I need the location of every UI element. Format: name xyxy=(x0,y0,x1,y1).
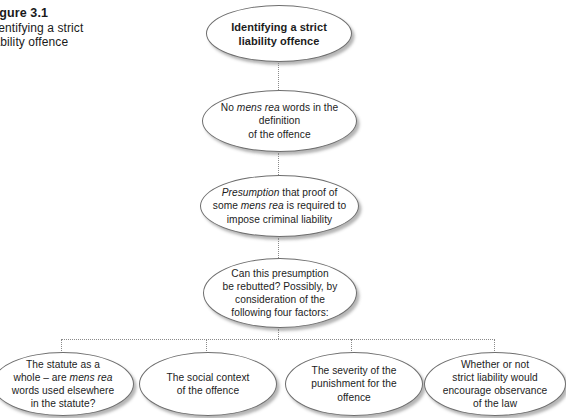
connector-branch-factor1 xyxy=(61,339,62,353)
node-factor-severity-of-punishment: The severity of thepunishment for theoff… xyxy=(285,352,423,416)
node-line-2: of the offence xyxy=(177,385,239,396)
node-line-2: strict liability would xyxy=(452,372,537,383)
connector-node3-node4 xyxy=(278,238,279,258)
figure-caption-line-2: liability offence xyxy=(0,35,108,50)
node-line-1: Can this presumption xyxy=(231,268,328,279)
figure-caption: Figure 3.1 Identifying a strict liabilit… xyxy=(0,6,108,50)
node-text: Identifying a strictliability offence xyxy=(225,20,333,48)
node-factor-social-context: The social contextof the offence xyxy=(139,352,277,416)
node-seg-1: that proof of xyxy=(279,187,337,198)
node-seg-1: whole – are xyxy=(14,372,70,383)
node-text: The statute as awhole – are mens reaword… xyxy=(6,358,120,411)
node-line-3: encourage observance xyxy=(443,385,548,396)
node-text: No mens rea words in thedefinitionof the… xyxy=(215,101,344,141)
node-line-2: punishment for the xyxy=(311,378,396,389)
node-seg-2: some xyxy=(213,200,241,211)
node-text: Can this presumptionbe rebutted? Possibl… xyxy=(217,267,344,320)
figure-caption-title: Figure 3.1 xyxy=(0,6,108,21)
figure-caption-line-1: Identifying a strict xyxy=(0,21,108,36)
connector-node4-branch xyxy=(278,329,279,339)
connector-branch-factor4 xyxy=(494,339,495,353)
connector-branch-factor3 xyxy=(351,339,352,353)
node-line-1: The severity of the xyxy=(312,365,397,376)
node-em-presumption: Presumption xyxy=(222,187,280,198)
node-text: The severity of thepunishment for theoff… xyxy=(305,364,402,404)
connector-node2-node3 xyxy=(278,153,279,175)
node-em-mens-rea: mens rea xyxy=(237,102,280,113)
node-line-4: in the statute? xyxy=(31,398,96,409)
node-line-2: definition xyxy=(259,115,300,126)
node-text: Whether or notstrict liability wouldenco… xyxy=(437,358,554,411)
node-line-2: be rebutted? Possibly, by xyxy=(223,281,338,292)
node-line-3: impose criminal liability xyxy=(227,214,332,225)
branch-horizontal-line xyxy=(61,339,495,340)
node-seg-1: No xyxy=(221,102,237,113)
node-can-presumption-be-rebutted: Can this presumptionbe rebutted? Possibl… xyxy=(203,258,357,328)
node-factor-statute-as-a-whole: The statute as awhole – are mens reaword… xyxy=(0,352,134,416)
node-text: The social contextof the offence xyxy=(160,371,255,397)
node-line-3: consideration of the xyxy=(235,294,325,305)
connector-node1-node2 xyxy=(278,63,279,90)
node-text: Presumption that proof ofsome mens rea i… xyxy=(207,186,352,226)
node-line-3: offence xyxy=(337,392,371,403)
node-line-2: liability offence xyxy=(239,35,320,47)
node-line-1: Identifying a strict xyxy=(231,21,327,33)
node-line-4: of the law xyxy=(473,398,517,409)
node-line-1: The statute as a xyxy=(26,359,100,370)
node-identifying-strict-liability-offence: Identifying a strictliability offence xyxy=(206,5,352,62)
node-seg-2: words in the xyxy=(280,102,338,113)
node-line-1: Whether or not xyxy=(461,359,529,370)
connector-branch-factor2 xyxy=(206,339,207,353)
node-factor-encourage-observance: Whether or notstrict liability wouldenco… xyxy=(424,352,566,416)
node-seg-3: is required to xyxy=(284,200,346,211)
node-line-1: The social context xyxy=(166,372,249,383)
node-em-mens-rea: mens rea xyxy=(241,200,284,211)
node-line-3: of the offence xyxy=(248,129,310,140)
node-em-mens-rea: mens rea xyxy=(70,372,113,383)
node-line-4: following four factors: xyxy=(231,307,328,318)
node-line-3: words used elsewhere xyxy=(12,385,114,396)
node-presumption-mens-rea-required: Presumption that proof ofsome mens rea i… xyxy=(200,175,359,237)
node-no-mens-rea-words: No mens rea words in thedefinitionof the… xyxy=(202,90,357,152)
